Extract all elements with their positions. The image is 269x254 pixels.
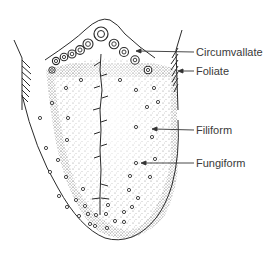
tongue-diagram: Circumvallate Foliate Filiform Fungiform bbox=[0, 0, 269, 254]
label-filiform: Filiform bbox=[196, 124, 232, 136]
label-circumvallate: Circumvallate bbox=[196, 46, 263, 58]
label-fungiform: Fungiform bbox=[196, 157, 246, 169]
foliate-left bbox=[14, 40, 31, 110]
label-foliate: Foliate bbox=[196, 65, 229, 77]
